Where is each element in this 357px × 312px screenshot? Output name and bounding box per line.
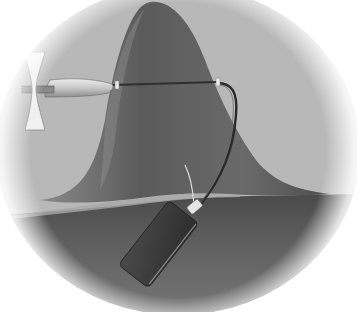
vignette-circle	[0, 0, 357, 312]
illustration-scene: Grayscale illustration of a probe with p…	[0, 0, 357, 312]
illustration-svg	[0, 0, 357, 312]
